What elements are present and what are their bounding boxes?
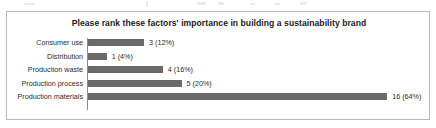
bar-value-label: 16 (64%): [392, 90, 421, 103]
chart-frame: Please rank these factors' importance in…: [6, 11, 430, 120]
bar-value-label: 4 (16%): [168, 63, 193, 76]
bar-value-label: 1 (4%): [112, 50, 133, 63]
bar: [88, 80, 182, 87]
bar: [88, 53, 107, 60]
bar-row: Production materials 16 (64%): [7, 90, 431, 103]
plot-area: Consumer use 3 (12%) Distribution 1 (4%)…: [7, 36, 431, 118]
bar: [88, 66, 163, 73]
chart-page: Please rank these factors' importance in…: [0, 0, 436, 128]
category-label: Production waste: [7, 63, 83, 76]
chart-title: Please rank these factors' importance in…: [7, 18, 431, 28]
category-label: Production process: [7, 77, 83, 90]
scan-artifact-band: [0, 0, 436, 11]
bar-row: Production process 5 (20%): [7, 77, 431, 90]
bar-row: Production waste 4 (16%): [7, 63, 431, 76]
category-label: Consumer use: [7, 36, 83, 49]
category-label: Distribution: [7, 50, 83, 63]
bar-value-label: 5 (20%): [187, 77, 212, 90]
bar-row: Distribution 1 (4%): [7, 50, 431, 63]
bar-value-label: 3 (12%): [149, 36, 174, 49]
bar: [88, 39, 144, 46]
bar-row: Consumer use 3 (12%): [7, 36, 431, 49]
category-label: Production materials: [7, 90, 83, 103]
bar: [88, 93, 387, 100]
